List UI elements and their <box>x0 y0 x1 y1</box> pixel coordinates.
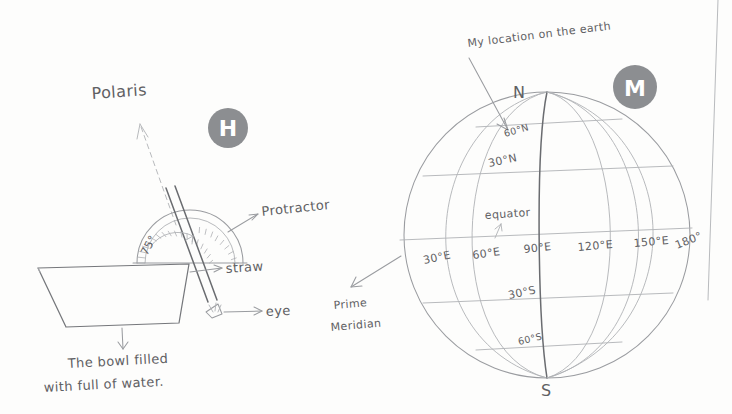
latitude-line-30n <box>423 166 673 176</box>
latitude-label-30n: 30°N <box>487 151 518 170</box>
meridian-lines <box>446 92 653 378</box>
straw <box>166 186 217 302</box>
meridian-120e <box>547 92 610 378</box>
bowl-caption-arrow <box>118 328 128 349</box>
my-location-label: My location on the earth <box>467 19 612 49</box>
bowl <box>38 264 189 327</box>
latitude-line-60n <box>476 119 622 127</box>
diagram-canvas: Polaris <box>0 0 732 414</box>
figure-m-group: My location on the earth N S 60°N 30°N 3… <box>330 19 704 400</box>
latitude-label-60n: 60°N <box>503 121 531 139</box>
straw-label: straw <box>225 258 264 276</box>
my-location-callout <box>469 58 508 130</box>
longitude-label-150e: 150°E <box>633 234 669 250</box>
figure-m-badge: M <box>613 65 657 109</box>
scanned-page: Polaris <box>0 0 732 414</box>
longitude-label-120e: 120°E <box>577 238 613 254</box>
north-pole-label: N <box>513 83 525 102</box>
prime-meridian-label-line1: Prime <box>333 296 368 312</box>
protractor-label: Protractor <box>261 197 331 219</box>
angle-label: 75° <box>138 233 159 257</box>
eye-callout <box>224 307 262 315</box>
meridian-150e <box>547 92 639 378</box>
prime-meridian-label-line2: Meridian <box>330 317 382 334</box>
south-pole-label: S <box>541 381 552 400</box>
eye-label: eye <box>265 303 291 319</box>
latitude-line-30s <box>423 293 673 303</box>
latitude-lines <box>400 119 692 350</box>
figure-h-badge: H <box>208 108 248 148</box>
latitude-label-30s: 30°S <box>507 283 537 302</box>
longitude-label-90e: 90°E <box>523 240 552 256</box>
figure-h-badge-letter: H <box>219 116 237 141</box>
figure-h-group: Polaris <box>38 80 331 395</box>
figure-m-badge-letter: M <box>624 76 646 101</box>
bowl-caption-line2: with full of water. <box>43 374 164 395</box>
bowl-caption-line1: The bowl filled <box>66 351 168 371</box>
polaris-sight-line <box>137 124 176 225</box>
prime-meridian-callout <box>351 256 401 287</box>
equator-label: equator <box>484 206 531 222</box>
polaris-label: Polaris <box>91 80 147 103</box>
eye-icon <box>206 303 222 318</box>
protractor-callout <box>228 214 258 232</box>
latitude-label-60s: 60°S <box>517 330 543 347</box>
meridian-180 <box>547 92 653 378</box>
longitude-label-60e: 60°E <box>472 245 502 262</box>
longitude-label-180: 180° <box>673 229 704 252</box>
page-edge-line <box>708 0 718 300</box>
